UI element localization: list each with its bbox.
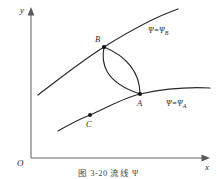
path-arc-right	[104, 47, 140, 94]
y-axis	[28, 7, 35, 158]
streamline-lower-subscript: A	[182, 103, 187, 109]
streamline-upper-annotation: Ψ=ΨB	[148, 26, 169, 36]
point-c-dot	[88, 113, 92, 117]
point-a-dot	[138, 92, 142, 96]
streamline-lower-psi-a	[58, 88, 210, 131]
point-a-label: A	[136, 98, 143, 108]
svg-text:Ψ=ΨB: Ψ=ΨB	[148, 26, 169, 36]
path-arc-left	[103, 47, 140, 94]
streamline-diagram: y x O B A C Ψ=ΨB Ψ=ΨA	[0, 0, 217, 179]
streamline-upper-subscript: B	[165, 30, 169, 36]
streamline-lower-text: Ψ=Ψ	[166, 99, 184, 108]
y-axis-label: y	[19, 5, 24, 15]
figure-container: y x O B A C Ψ=ΨB Ψ=ΨA 图 3-20 流线 Ψ	[0, 0, 217, 179]
point-b-dot	[102, 45, 106, 49]
point-b-label: B	[95, 34, 100, 44]
y-axis-arrowhead	[28, 7, 35, 16]
streamline-upper-text: Ψ=Ψ	[148, 26, 166, 35]
streamline-upper-psi-b	[38, 9, 178, 95]
point-c-label: C	[86, 119, 92, 129]
x-axis	[31, 155, 210, 162]
svg-text:Ψ=ΨA: Ψ=ΨA	[166, 99, 187, 109]
x-axis-arrowhead	[202, 155, 211, 162]
figure-caption: 图 3-20 流线 Ψ	[0, 166, 217, 178]
streamline-lower-annotation: Ψ=ΨA	[166, 99, 187, 109]
